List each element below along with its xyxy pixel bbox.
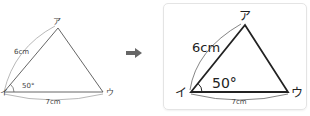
right-angle: 50°: [212, 75, 237, 91]
right-triangle: [190, 24, 288, 100]
left-side-6cm: 6cm: [14, 48, 29, 56]
right-side-7cm: 7cm: [231, 98, 246, 106]
left-triangle: [4, 26, 103, 100]
triangle-diagrams: ア イ ウ 6cm 7cm 50° ア イ ウ 6cm 7cm 50°: [0, 0, 310, 116]
right-side-6cm: 6cm: [192, 40, 220, 55]
left-angle: 50°: [22, 82, 34, 90]
right-label-a: ア: [239, 9, 251, 23]
left-side-7cm: 7cm: [45, 98, 60, 106]
left-label-a: ア: [53, 17, 61, 26]
right-label-u: ウ: [291, 86, 303, 100]
arrow-right-icon: [126, 48, 142, 58]
right-label-i: イ: [175, 86, 187, 100]
left-label-u: ウ: [106, 88, 114, 97]
left-label-i: イ: [0, 88, 8, 97]
